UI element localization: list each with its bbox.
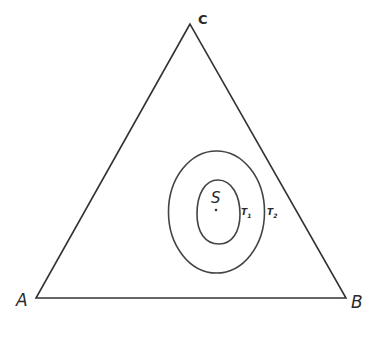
vertex-label-c: C <box>198 13 208 26</box>
point-label-s: S <box>211 191 221 206</box>
contour-label-t1: T1 <box>241 208 251 219</box>
vertex-label-b: B <box>351 294 363 311</box>
vertex-label-a: A <box>16 292 28 309</box>
contour-label-t1-sub: 1 <box>247 212 251 219</box>
diagram-canvas: C A B S T1 T2 <box>0 0 377 342</box>
ternary-diagram <box>0 0 377 342</box>
contour-label-t2: T2 <box>267 208 277 219</box>
contour-label-t2-sub: 2 <box>273 212 277 219</box>
point-s-dot <box>215 209 218 212</box>
